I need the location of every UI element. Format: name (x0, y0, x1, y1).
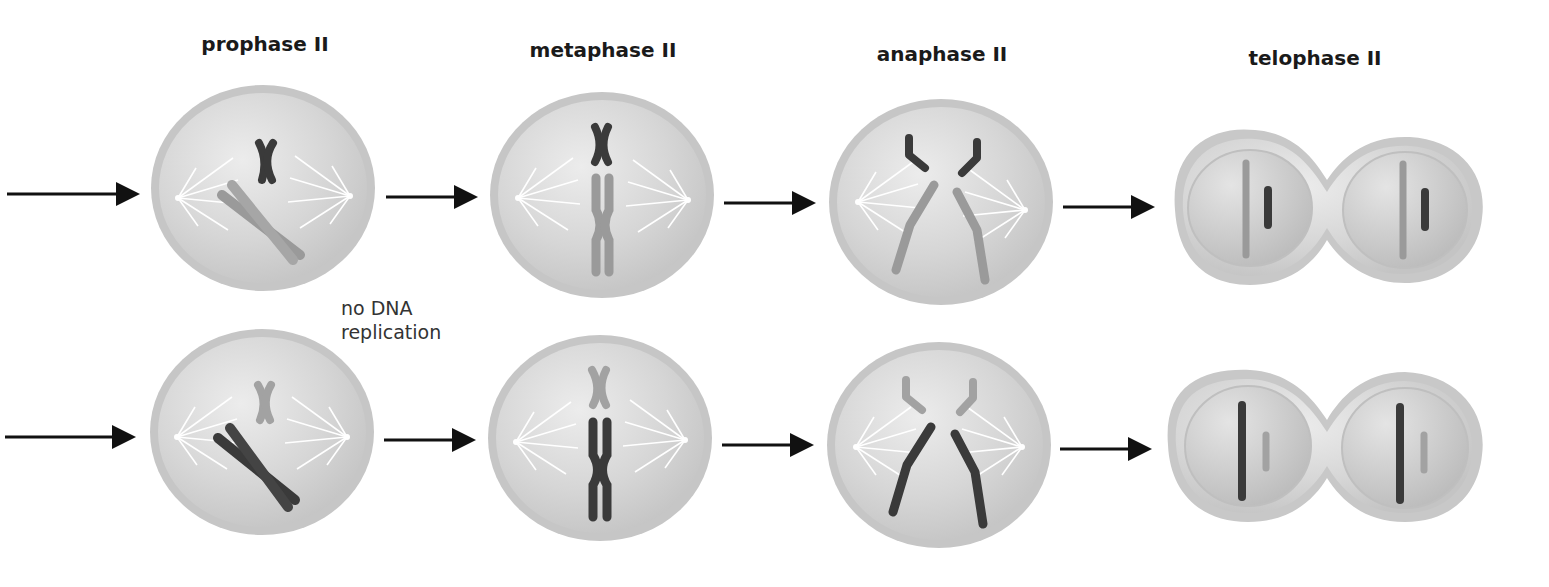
cell-anaphase-ii-top (829, 99, 1053, 305)
nucleus-left (1185, 386, 1311, 506)
nucleus-left (1188, 150, 1312, 266)
meiosis-ii-diagram (0, 0, 1549, 587)
cell-prophase-ii-top (151, 85, 375, 291)
chromosome-light-small (258, 385, 271, 420)
cell-anaphase-ii-bottom (827, 342, 1051, 548)
cell-metaphase-ii-bottom (488, 335, 712, 541)
cell-metaphase-ii-top (490, 92, 714, 298)
cell-telophase-ii-top (1175, 129, 1483, 285)
cell-telophase-ii-bottom (1168, 370, 1483, 522)
cell-prophase-ii-bottom (150, 329, 374, 535)
nucleus-right (1342, 388, 1468, 508)
chromosome-dark-small (259, 143, 273, 180)
